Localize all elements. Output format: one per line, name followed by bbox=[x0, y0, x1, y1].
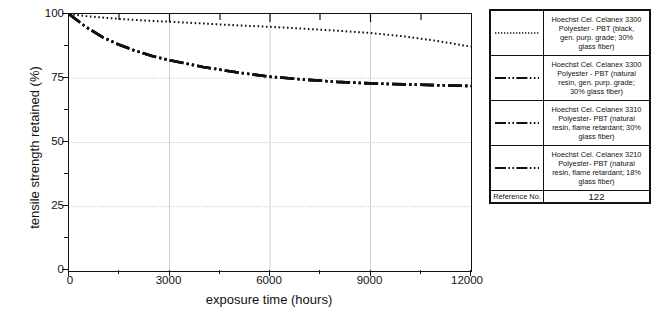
legend-desc-line: glass fiber) bbox=[544, 42, 649, 51]
plot-frame bbox=[68, 13, 472, 272]
x-tick-mark-minor-1500 bbox=[118, 270, 119, 274]
legend-row: Hoechst Cel. Celanex 3300 Polyester - PB… bbox=[491, 11, 650, 56]
x-axis-title: exposure time (hours) bbox=[68, 292, 470, 307]
top-tick-marks bbox=[119, 14, 421, 22]
x-tick-label-0: 0 bbox=[67, 274, 73, 286]
legend-description-2: Hoechst Cel. Celanex 3300 Polyester - PB… bbox=[544, 56, 650, 101]
x-tick-mark-minor-7500 bbox=[319, 270, 320, 274]
legend-desc-line: resin, flame retardant; 18% bbox=[544, 168, 649, 177]
legend-row: Hoechst Cel. Celanex 3310 Polyester- PBT… bbox=[491, 101, 650, 146]
legend-table: Hoechst Cel. Celanex 3300 Polyester - PB… bbox=[489, 9, 651, 204]
legend-sample-3 bbox=[491, 101, 544, 146]
line-sample-dash-dot-dot-icon bbox=[494, 163, 540, 173]
legend-sample-4 bbox=[491, 146, 544, 191]
x-tick-mark-minor-4500 bbox=[219, 270, 220, 274]
chart-region: 100 75 50 25 0 bbox=[0, 0, 480, 321]
legend-description-1: Hoechst Cel. Celanex 3300 Polyester - PB… bbox=[544, 11, 650, 56]
line-sample-dash-dot-dot-icon bbox=[494, 118, 540, 128]
legend-desc-line: Hoechst Cel. Celanex 3300 bbox=[544, 15, 649, 24]
legend-desc-line: Polyester- PBT (natural bbox=[544, 114, 649, 123]
legend-desc-line: Hoechst Cel. Celanex 3300 bbox=[544, 60, 649, 69]
legend-desc-line: glass fiber) bbox=[544, 177, 649, 186]
legend-desc-line: Hoechst Cel. Celanex 3310 bbox=[544, 105, 649, 114]
legend-sample-1 bbox=[491, 11, 544, 56]
legend-description-3: Hoechst Cel. Celanex 3310 Polyester- PBT… bbox=[544, 101, 650, 146]
y-axis-title: tensile strength retained (%) bbox=[27, 28, 42, 268]
x-tick-label-6000: 6000 bbox=[256, 274, 282, 286]
legend-desc-line: 30% glass fiber) bbox=[544, 87, 649, 96]
legend-row: Hoechst Cel. Celanex 3210 Polyester- PBT… bbox=[491, 146, 650, 191]
legend-row: Hoechst Cel. Celanex 3300 Polyester - PB… bbox=[491, 56, 650, 101]
legend-desc-line: gen. purp. grade; 30% bbox=[544, 33, 649, 42]
x-tick-mark-minor-10500 bbox=[420, 270, 421, 274]
legend-desc-line: Polyester- PBT (natural bbox=[544, 159, 649, 168]
line-sample-dash-dot-dot-icon bbox=[494, 73, 540, 83]
figure-container: 100 75 50 25 0 bbox=[0, 0, 657, 321]
x-tick-label-12000: 12000 bbox=[451, 274, 483, 286]
x-tick-label-9000: 9000 bbox=[357, 274, 383, 286]
legend-desc-line: resin, flame retardant; 30% bbox=[544, 123, 649, 132]
line-sample-dotted-icon bbox=[494, 28, 540, 38]
x-tick-label-3000: 3000 bbox=[156, 274, 182, 286]
plot-canvas bbox=[69, 14, 471, 271]
reference-number-label: Reference No. bbox=[491, 191, 544, 203]
legend-desc-line: glass fiber) bbox=[544, 132, 649, 141]
legend-desc-line: Polyester - PBT (black, bbox=[544, 24, 649, 33]
legend-desc-line: Polyester - PBT (natural bbox=[544, 69, 649, 78]
legend-description-4: Hoechst Cel. Celanex 3210 Polyester- PBT… bbox=[544, 146, 650, 191]
reference-number-value: 122 bbox=[544, 191, 650, 203]
legend-reference-row: Reference No. 122 bbox=[491, 191, 650, 203]
y-tick-label-100: 100 bbox=[18, 8, 64, 19]
legend-desc-line: resin, gen. purp. grade; bbox=[544, 78, 649, 87]
legend-desc-line: Hoechst Cel. Celanex 3210 bbox=[544, 150, 649, 159]
legend-sample-2 bbox=[491, 56, 544, 101]
